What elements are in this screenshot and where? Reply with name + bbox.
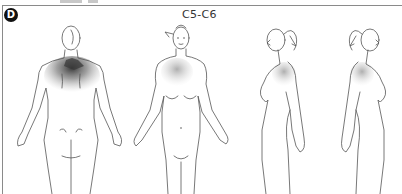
figure-anterior (134, 25, 228, 194)
shading-neck-shoulder (350, 62, 374, 86)
shading-shoulder (161, 58, 193, 86)
figure-posterior (18, 26, 122, 194)
figure-lateral-right (342, 29, 386, 194)
head (173, 27, 189, 49)
shading-neck-shoulder (272, 62, 296, 86)
dermatome-figures (0, 0, 402, 194)
figure-lateral-left (260, 29, 304, 194)
